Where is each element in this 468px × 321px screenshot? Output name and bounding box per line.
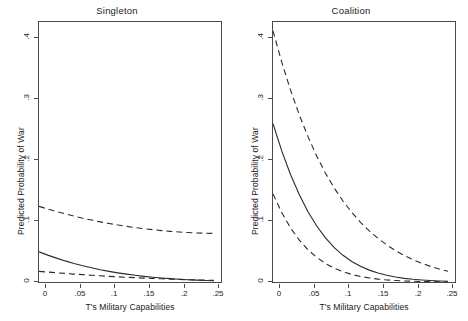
x-tick-mark-1 [314,284,315,288]
x-tick-mark-4 [184,284,185,288]
panel-coalition: Coalition Predicted Probability of War T… [234,0,468,321]
x-tick-mark-2 [114,284,115,288]
y-tick-mark-1 [34,220,38,221]
panel-title-coalition: Coalition [248,4,454,17]
y-tick-mark-4 [268,37,272,38]
y-tick-mark-2 [34,159,38,160]
y-tick-label-4: .4 [256,31,265,43]
x-tick-mark-3 [149,284,150,288]
plot-lines-coalition [273,22,455,282]
x-tick-mark-2 [348,284,349,288]
x-tick-label-0: 0 [33,289,57,298]
x-tick-label-1: .05 [68,289,92,298]
x-tick-label-3: .15 [137,289,161,298]
x-tick-label-5: .25 [206,289,230,298]
x-tick-label-4: .2 [172,289,196,298]
x-axis-label-coalition: T's Military Capabilities [272,302,456,312]
curve-dashed [39,271,214,280]
x-axis-label-singleton: T's Military Capabilities [38,302,222,312]
x-tick-label-2: .1 [336,289,360,298]
x-tick-label-3: .15 [371,289,395,298]
y-tick-label-0: 0 [22,275,31,287]
x-tick-mark-0 [45,284,46,288]
y-tick-label-4: .4 [22,31,31,43]
panel-title-singleton: Singleton [14,4,220,17]
y-tick-mark-4 [34,37,38,38]
x-tick-label-2: .1 [102,289,126,298]
x-tick-mark-5 [452,284,453,288]
figure-canvas: Singleton Predicted Probability of War T… [0,0,468,321]
y-tick-label-1: .1 [22,214,31,226]
y-tick-label-3: .3 [256,92,265,104]
y-tick-label-3: .3 [22,92,31,104]
y-tick-mark-3 [268,98,272,99]
curve-dashed [273,31,448,271]
x-tick-label-0: 0 [267,289,291,298]
curve-solid [273,124,448,282]
x-tick-label-1: .05 [302,289,326,298]
x-tick-label-5: .25 [440,289,464,298]
y-tick-label-1: .1 [256,214,265,226]
curve-solid [39,252,214,281]
plot-lines-singleton [39,22,221,282]
x-tick-mark-4 [418,284,419,288]
x-tick-mark-3 [383,284,384,288]
x-tick-mark-5 [218,284,219,288]
plot-area-coalition [272,21,456,283]
x-tick-mark-0 [279,284,280,288]
y-tick-label-2: .2 [22,153,31,165]
curve-dashed [273,194,448,282]
curve-dashed [39,206,214,233]
x-tick-mark-1 [80,284,81,288]
y-tick-mark-0 [34,281,38,282]
y-tick-label-0: 0 [256,275,265,287]
y-tick-label-2: .2 [256,153,265,165]
y-tick-mark-3 [34,98,38,99]
y-tick-mark-1 [268,220,272,221]
x-tick-label-4: .2 [406,289,430,298]
y-tick-mark-2 [268,159,272,160]
panel-singleton: Singleton Predicted Probability of War T… [0,0,234,321]
plot-area-singleton [38,21,222,283]
y-tick-mark-0 [268,281,272,282]
